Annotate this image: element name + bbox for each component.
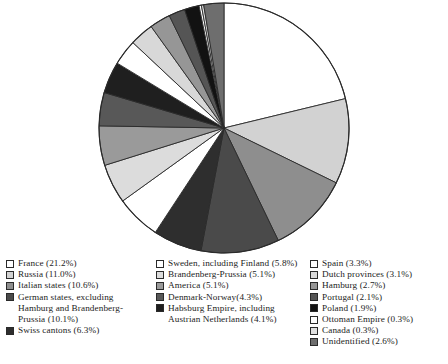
legend-swatch	[310, 260, 318, 268]
legend-column-1: France (21.2%)Russia (11.0%)Italian stat…	[0, 258, 152, 336]
legend-swatch	[6, 327, 14, 335]
legend-item-label: Unidentified (2.6%)	[322, 336, 398, 347]
legend-item[interactable]: Sweden, including Finland (5.8%)	[156, 258, 302, 269]
pie-chart	[96, 0, 352, 256]
legend-item[interactable]: Denmark-Norway(4.3%)	[156, 292, 302, 303]
legend-swatch	[310, 282, 318, 290]
legend-item[interactable]: Dutch provinces (3.1%)	[310, 269, 448, 280]
legend-item[interactable]: Ottoman Empire (0.3%)	[310, 314, 448, 325]
legend-item-label: Denmark-Norway(4.3%)	[168, 292, 262, 303]
legend-swatch	[310, 327, 318, 335]
legend-item-label: Habsburg Empire, including Austrian Neth…	[168, 303, 277, 325]
legend-item-label: Ottoman Empire (0.3%)	[322, 314, 413, 325]
legend-column-2: Sweden, including Finland (5.8%)Brandenb…	[152, 258, 302, 325]
legend-item-label: Spain (3.3%)	[322, 258, 372, 269]
legend-item[interactable]: Portugal (2.1%)	[310, 292, 448, 303]
legend-item[interactable]: German states, excluding Hamburg and Bra…	[6, 292, 152, 326]
legend-item[interactable]: Canada (0.3%)	[310, 325, 448, 336]
legend-item[interactable]: Habsburg Empire, including Austrian Neth…	[156, 303, 302, 325]
legend-swatch	[6, 293, 14, 301]
legend-item[interactable]: Hamburg (2.7%)	[310, 280, 448, 291]
legend-item[interactable]: Unidentified (2.6%)	[310, 336, 448, 347]
legend-swatch	[156, 304, 164, 312]
pie-slices	[99, 3, 349, 253]
legend-swatch	[6, 271, 14, 279]
legend-item-label: Portugal (2.1%)	[322, 292, 382, 303]
legend-item[interactable]: Russia (11.0%)	[6, 269, 152, 280]
legend-swatch	[310, 271, 318, 279]
legend-item-label: German states, excluding Hamburg and Bra…	[18, 292, 123, 326]
legend-item-label: Sweden, including Finland (5.8%)	[168, 258, 298, 269]
legend-item-label: Canada (0.3%)	[322, 325, 378, 336]
legend-swatch	[156, 282, 164, 290]
legend-column-3: Spain (3.3%)Dutch provinces (3.1%)Hambur…	[302, 258, 448, 348]
legend-item-label: Swiss cantons (6.3%)	[18, 325, 99, 336]
legend-item[interactable]: France (21.2%)	[6, 258, 152, 269]
legend-item[interactable]: Brandenberg-Prussia (5.1%)	[156, 269, 302, 280]
legend-swatch	[6, 282, 14, 290]
legend-item-label: France (21.2%)	[18, 258, 77, 269]
legend-swatch	[156, 260, 164, 268]
legend-item[interactable]: Poland (1.9%)	[310, 303, 448, 314]
legend-item[interactable]: Italian states (10.6%)	[6, 280, 152, 291]
legend-swatch	[156, 271, 164, 279]
chart-legend: France (21.2%)Russia (11.0%)Italian stat…	[0, 258, 448, 350]
pie-chart-area	[0, 0, 448, 256]
legend-swatch	[310, 293, 318, 301]
figure-caption	[0, 351, 448, 364]
legend-item-label: Poland (1.9%)	[322, 303, 376, 314]
legend-item-label: Brandenberg-Prussia (5.1%)	[168, 269, 275, 280]
legend-item-label: Dutch provinces (3.1%)	[322, 269, 412, 280]
legend-swatch	[310, 338, 318, 346]
legend-item[interactable]: America (5.1%)	[156, 280, 302, 291]
legend-swatch	[310, 304, 318, 312]
legend-swatch	[310, 316, 318, 324]
legend-item-label: Hamburg (2.7%)	[322, 280, 386, 291]
legend-item[interactable]: Spain (3.3%)	[310, 258, 448, 269]
legend-item-label: America (5.1%)	[168, 280, 229, 291]
legend-item-label: Russia (11.0%)	[18, 269, 76, 280]
legend-swatch	[156, 293, 164, 301]
legend-swatch	[6, 260, 14, 268]
legend-item[interactable]: Swiss cantons (6.3%)	[6, 325, 152, 336]
legend-item-label: Italian states (10.6%)	[18, 280, 99, 291]
